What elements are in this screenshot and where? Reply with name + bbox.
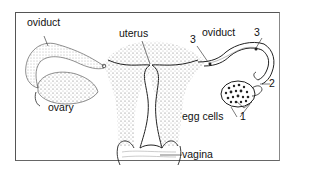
label-number-1: 1	[240, 111, 246, 122]
uterus-shape	[104, 42, 206, 148]
label-number-3-left: 3	[190, 34, 196, 45]
right-ovary-shape	[221, 81, 262, 107]
label-oviduct-right: oviduct	[202, 27, 235, 38]
label-vagina: vagina	[182, 149, 213, 160]
label-oviduct-left: oviduct	[27, 17, 60, 28]
label-number-2: 2	[269, 78, 275, 89]
label-egg-cells: egg cells	[182, 111, 223, 122]
label-ovary: ovary	[48, 102, 74, 113]
label-uterus: uterus	[119, 28, 148, 39]
right-oviduct-shape	[198, 42, 274, 84]
label-number-3-right: 3	[254, 27, 260, 38]
